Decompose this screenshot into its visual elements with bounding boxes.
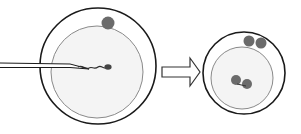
pronucleus-2	[242, 79, 252, 89]
pronucleus-1	[231, 75, 241, 85]
diagram-canvas	[0, 0, 301, 134]
polar-body	[102, 17, 115, 30]
arrow-right-icon	[162, 58, 200, 86]
polar-body-1	[244, 36, 255, 47]
polar-body-2	[256, 38, 267, 49]
cytoplasm-membrane	[51, 26, 143, 118]
icsi-diagram	[0, 0, 301, 134]
right-oocyte	[203, 32, 285, 114]
sperm-head	[104, 64, 111, 70]
cytoplasm-membrane	[211, 47, 273, 109]
